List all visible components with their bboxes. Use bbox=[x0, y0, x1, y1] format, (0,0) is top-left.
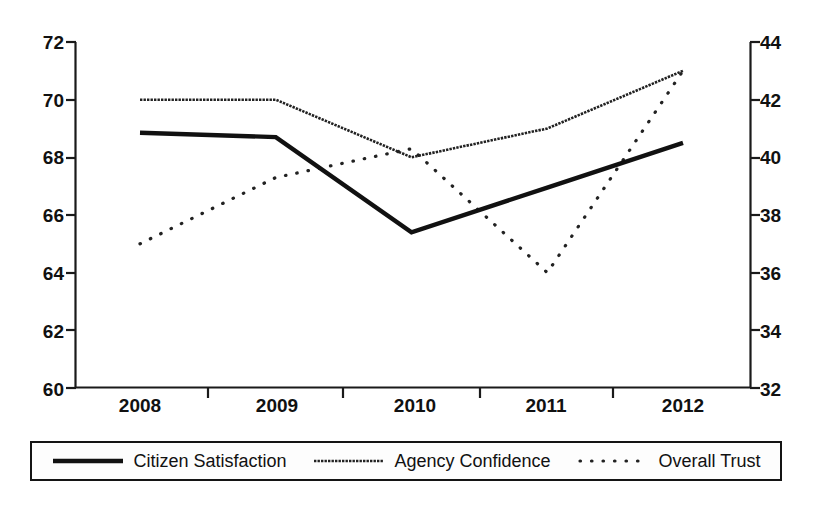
legend-swatch-fine-solid-icon bbox=[312, 454, 386, 468]
series-agency-confidence bbox=[140, 71, 683, 158]
legend-label-overall-trust: Overall Trust bbox=[651, 451, 761, 472]
legend-label-agency-confidence: Agency Confidence bbox=[386, 451, 550, 472]
chart-legend: Citizen Satisfaction Agency Confidence O… bbox=[30, 441, 782, 481]
legend-swatch-solid-thick-icon bbox=[51, 454, 125, 468]
line-chart: 72 70 68 66 64 62 60 44 42 40 38 36 34 3… bbox=[0, 0, 817, 508]
x-axis-ticks bbox=[208, 388, 613, 398]
legend-item-overall-trust[interactable]: Overall Trust bbox=[577, 451, 761, 472]
series-citizen-satisfaction bbox=[140, 133, 683, 233]
legend-swatch-dotted-icon bbox=[577, 454, 651, 468]
legend-item-citizen-satisfaction[interactable]: Citizen Satisfaction bbox=[51, 451, 286, 472]
plot-area bbox=[0, 0, 817, 508]
legend-item-agency-confidence[interactable]: Agency Confidence bbox=[312, 451, 550, 472]
legend-label-citizen-satisfaction: Citizen Satisfaction bbox=[125, 451, 286, 472]
